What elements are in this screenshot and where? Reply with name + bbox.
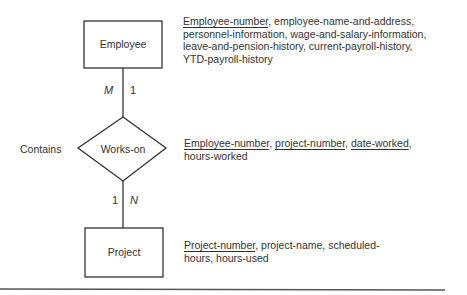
cardinality-project-right: N: [130, 194, 138, 206]
employee-attributes: Employee-number, employee-name-and-addre…: [183, 15, 438, 65]
contains-label: Contains: [20, 143, 61, 156]
project-entity-label: Project: [85, 246, 163, 259]
cardinality-employee-left: M: [104, 84, 113, 96]
works-on-key-employee-number: Employee-number: [184, 137, 269, 149]
cardinality-project-left: 1: [112, 194, 118, 206]
cardinality-employee-right: 1: [130, 84, 136, 96]
employee-key-attribute: Employee-number: [183, 15, 268, 27]
employee-entity-label: Employee: [84, 38, 162, 51]
works-on-key-project-number: project-number: [275, 137, 345, 149]
works-on-key-date-worked: date-worked: [351, 137, 409, 149]
works-on-attributes: Employee-number, project-number, date-wo…: [184, 137, 434, 162]
works-on-relationship-label: Works-on: [88, 143, 158, 156]
project-attributes: Project-number, project-name, scheduled-…: [184, 239, 404, 264]
bottom-rule: [0, 289, 445, 290]
project-key-attribute: Project-number: [184, 239, 255, 251]
